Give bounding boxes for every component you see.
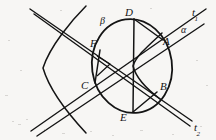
label-tangent-t1-sub: 1 [195,15,199,23]
label-tangent-t2: t2 [194,122,201,136]
figure-canvas [0,0,216,140]
label-angle-alpha: α [181,25,186,35]
label-point-e: E [120,112,127,123]
chord-DE [133,19,134,112]
label-point-a: A [163,36,170,47]
chord-EB [133,92,157,112]
label-point-c: C [81,80,88,91]
line-t2-path-parallel [34,14,190,126]
chord-DA [134,19,163,40]
label-point-d: D [125,7,133,18]
label-tangent-t1: t1 [192,7,199,21]
label-angle-beta: β [100,16,105,26]
label-point-b: B [160,81,167,92]
label-tangent-t2-sub: 2 [197,130,201,138]
geometry-figure: A B C D E F α β t1 t2 [0,0,216,140]
label-point-f: F [90,38,97,49]
